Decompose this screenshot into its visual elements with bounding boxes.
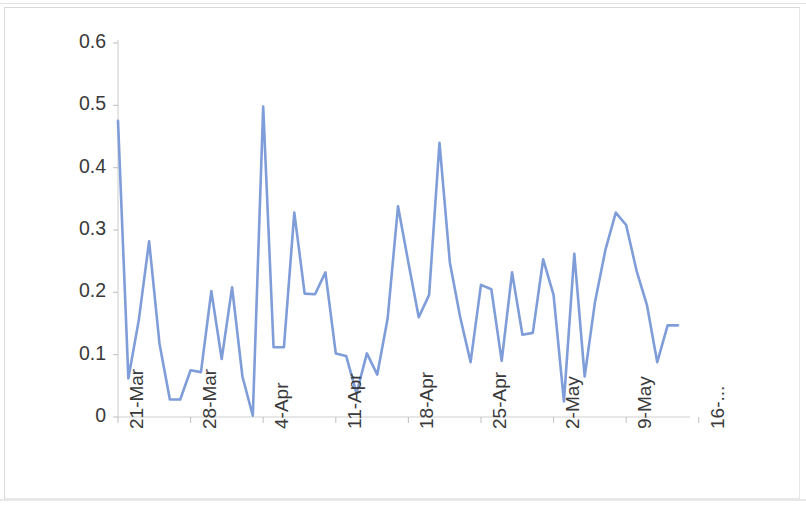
x-tick-label: 28-Mar <box>199 369 221 429</box>
x-tick-label: 25-Apr <box>489 372 511 429</box>
x-tick-label: 11-Apr <box>344 373 366 429</box>
x-tick-label: 2-May <box>562 376 584 429</box>
x-tick-label: 4-Apr <box>271 383 293 429</box>
x-axis-tick-labels: 21-Mar28-Mar4-Apr11-Apr18-Apr25-Apr2-May… <box>0 0 806 506</box>
x-tick-label: 9-May <box>634 376 656 429</box>
x-tick-label: 18-Apr <box>416 372 438 429</box>
chart-page: 0.60.50.40.30.20.10 21-Mar28-Mar4-Apr11-… <box>0 0 806 506</box>
x-tick-label: 21-Mar <box>126 369 148 429</box>
line-chart: 0.60.50.40.30.20.10 21-Mar28-Mar4-Apr11-… <box>0 0 806 506</box>
x-tick-label: 16-... <box>707 386 729 429</box>
